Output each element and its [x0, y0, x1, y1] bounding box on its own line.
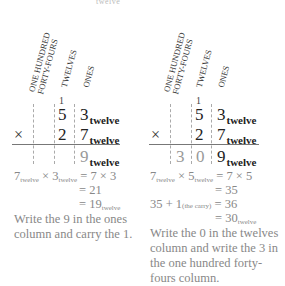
result-ones-digit: 9twelve	[80, 148, 119, 171]
header-twelves: TWELVES	[195, 49, 213, 89]
bottom-ones-digit: 7twelve	[217, 126, 256, 149]
explanation-text: Write the 0 in the twelves column and wr…	[150, 226, 285, 286]
header-ones: ONES	[217, 65, 231, 89]
column-guide	[191, 104, 192, 164]
explanation-text: Write the 9 in the ones column and carry…	[14, 212, 149, 242]
result-twelves-digit: 0	[196, 148, 205, 165]
bottom-twelves-digit: 2	[195, 126, 204, 143]
top-twelves-digit: 5	[58, 106, 67, 123]
right-step-panel: ONE HUNDRED FORTY-FOURS TWELVES ONES 1 5…	[140, 0, 280, 279]
column-guide	[74, 104, 75, 164]
column-guide	[170, 104, 171, 164]
cropped-label: twelve	[96, 0, 120, 6]
header-one-hundred-forty-fours: ONE HUNDRED FORTY-FOURS	[163, 32, 195, 95]
equation-line-2: = 21	[79, 184, 102, 197]
multiply-sign: ×	[151, 126, 160, 144]
column-guide	[33, 104, 34, 164]
equation-line-2: = 35	[215, 184, 238, 197]
column-guide	[54, 104, 55, 164]
bottom-ones-digit: 7twelve	[80, 126, 119, 149]
result-hundred-forty-fours-digit: 3	[176, 148, 185, 165]
sum-rule	[149, 144, 259, 145]
sum-rule	[12, 144, 120, 145]
column-guide	[211, 104, 212, 164]
top-twelves-digit: 5	[195, 106, 204, 123]
header-twelves: TWELVES	[60, 49, 78, 89]
multiply-sign: ×	[14, 126, 23, 144]
header-one-hundred-forty-fours: ONE HUNDRED FORTY-FOURS	[28, 32, 60, 95]
header-ones: ONES	[82, 65, 96, 89]
result-ones-digit: 9twelve	[217, 148, 256, 171]
bottom-twelves-digit: 2	[58, 126, 67, 143]
left-step-panel: twelve ONE HUNDRED FORTY-FOURS TWELVES O…	[0, 0, 140, 279]
